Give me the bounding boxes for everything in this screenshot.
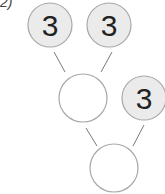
circle-value: 3 — [101, 9, 118, 42]
circle-middle-sum[interactable] — [59, 74, 107, 122]
connector-line — [133, 125, 144, 146]
connector-line — [101, 52, 112, 72]
connector-line — [54, 52, 65, 72]
circle-bottom-sum[interactable] — [90, 144, 138, 192]
number-bond-tree: 3 3 3 — [0, 0, 165, 194]
circle-top-right: 3 — [87, 3, 131, 47]
circle-value: 3 — [136, 82, 153, 115]
circle-middle-right: 3 — [122, 76, 165, 120]
connector-line — [86, 128, 97, 146]
circle-value: 3 — [42, 9, 59, 42]
circle-top-left: 3 — [28, 3, 72, 47]
